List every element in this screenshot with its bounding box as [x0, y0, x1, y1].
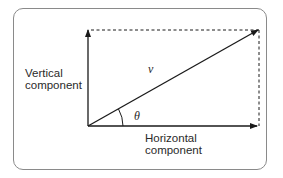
vertical-label-line2: component: [25, 79, 82, 91]
vertical-label-line1: Vertical: [25, 67, 82, 79]
horizontal-label-line1: Horizontal: [145, 132, 202, 144]
vertical-component-label: Vertical component: [25, 67, 82, 91]
horizontal-label-line2: component: [145, 144, 202, 156]
angle-label: θ: [134, 110, 140, 122]
vector-label: v: [148, 63, 153, 75]
horizontal-component-label: Horizontal component: [145, 132, 202, 156]
angle-arc: [119, 109, 124, 126]
resultant-vector-arrow: [88, 30, 258, 126]
